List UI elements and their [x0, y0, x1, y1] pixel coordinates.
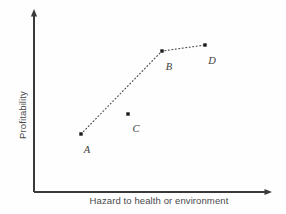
y-axis-arrowhead: [31, 9, 37, 17]
data-point-label-d: D: [208, 55, 216, 66]
chart-container: Hazard to health or environment Profitab…: [0, 0, 286, 214]
data-point-marker-a[interactable]: [79, 132, 82, 135]
frontier-connector-line: [81, 45, 205, 134]
data-point-marker-b[interactable]: [160, 49, 163, 52]
frontier-connector-group: [81, 45, 205, 134]
data-point-label-c: C: [132, 123, 139, 134]
x-axis-title: Hazard to health or environment: [0, 195, 286, 206]
data-point-label-a: A: [84, 144, 90, 155]
axes-group: [31, 9, 272, 195]
y-axis-title: Profitability: [17, 50, 28, 180]
data-point-label-b: B: [166, 61, 172, 72]
scatter-plot-canvas: [0, 0, 286, 214]
data-point-markers-group: [79, 43, 206, 135]
data-point-marker-c[interactable]: [126, 112, 129, 115]
data-point-marker-d[interactable]: [203, 43, 206, 46]
